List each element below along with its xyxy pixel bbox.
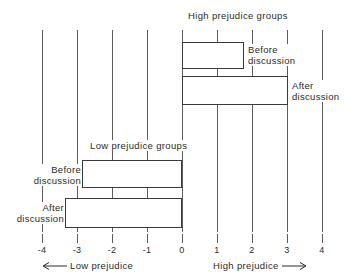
- left-arrow-icon: [41, 260, 67, 271]
- bar-label-low-after-discussion: After discussion: [0, 202, 65, 224]
- tick-mark-minus2: [112, 234, 113, 243]
- tick-mark-1: [217, 234, 218, 243]
- bar-label-low-before-discussion: Before discussion: [10, 164, 82, 186]
- gridline-4: [322, 30, 323, 232]
- tick-label-4: 4: [310, 245, 334, 255]
- prejudice-bar-chart: High prejudice groups Before discussion …: [0, 0, 349, 279]
- group-title-low-prejudice: Low prejudice groups: [88, 140, 189, 151]
- tick-mark-minus4: [42, 234, 43, 243]
- axis-note-high-label: High prejudice: [213, 260, 279, 271]
- tick-mark-minus3: [77, 234, 78, 243]
- group-title-high-prejudice: High prejudice groups: [186, 10, 290, 21]
- bar-label-line2: discussion: [17, 213, 64, 224]
- tick-mark-zero: [182, 234, 183, 243]
- bar-label-line2: discussion: [292, 91, 339, 102]
- bar-label-line1: Before: [248, 44, 278, 55]
- axis-note-high-prejudice: High prejudice: [213, 260, 308, 271]
- right-arrow-icon: [282, 260, 308, 271]
- bar-label-high-after-discussion: After discussion: [291, 80, 340, 102]
- tick-label-minus1: -1: [135, 245, 159, 255]
- bar-high-after-discussion: [182, 76, 288, 105]
- tick-mark-3: [287, 234, 288, 243]
- bar-label-line2: discussion: [34, 175, 81, 186]
- tick-label-1: 1: [205, 245, 229, 255]
- bar-high-before-discussion: [182, 42, 244, 69]
- tick-mark-2: [252, 234, 253, 243]
- axis-note-low-label: Low prejudice: [70, 260, 133, 271]
- bar-label-line1: After: [292, 80, 314, 91]
- bar-label-line2: discussion: [248, 55, 295, 66]
- tick-label-3: 3: [275, 245, 299, 255]
- tick-label-zero: 0: [170, 245, 194, 255]
- tick-label-2: 2: [240, 245, 264, 255]
- bar-low-after-discussion: [65, 198, 182, 228]
- tick-mark-4: [322, 234, 323, 243]
- tick-label-minus3: -3: [65, 245, 89, 255]
- axis-note-low-prejudice: Low prejudice: [41, 260, 133, 271]
- bar-label-line1: After: [42, 202, 64, 213]
- tick-mark-minus1: [147, 234, 148, 243]
- tick-label-minus4: -4: [30, 245, 54, 255]
- bar-label-line1: Before: [51, 164, 81, 175]
- bar-low-before-discussion: [82, 160, 182, 188]
- tick-label-minus2: -2: [100, 245, 124, 255]
- bar-label-high-before-discussion: Before discussion: [247, 44, 296, 66]
